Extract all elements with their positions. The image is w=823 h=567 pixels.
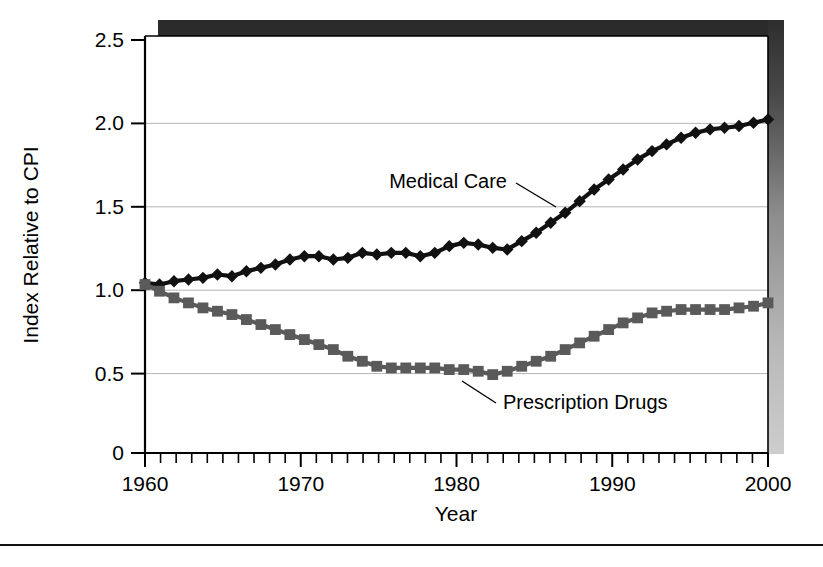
y-tick-label-1-0: 1.0 [95, 278, 124, 301]
data-point-marker-square [415, 363, 426, 374]
x-tick-label-1980: 1980 [433, 472, 480, 495]
data-point-marker-square [618, 317, 629, 328]
data-point-marker-square [458, 364, 469, 375]
x-tick-label-1960: 1960 [122, 472, 169, 495]
data-point-marker-square [183, 297, 194, 308]
data-point-marker-square [531, 356, 542, 367]
data-point-marker-square [386, 363, 397, 374]
data-point-marker-square [748, 301, 759, 312]
y-tick-label-2-5: 2.5 [95, 28, 124, 51]
line-chart: 2.5 2.0 1.5 1.0 0.5 0 Index Relative to … [0, 0, 823, 567]
x-tick-labels: 19601970198019902000 [122, 472, 792, 495]
data-point-marker-square [574, 338, 585, 349]
data-point-marker-square [140, 279, 151, 290]
data-point-marker-square [256, 319, 267, 330]
x-tick-label-2000: 2000 [745, 472, 792, 495]
data-point-marker-square [647, 307, 658, 318]
data-point-marker-square [487, 369, 498, 380]
data-point-marker-square [690, 304, 701, 315]
data-point-marker-square [473, 366, 484, 377]
data-point-marker-square [603, 324, 614, 335]
x-tick-label-1990: 1990 [589, 472, 636, 495]
data-point-marker-square [719, 304, 730, 315]
data-point-marker-square [560, 344, 571, 355]
data-point-marker-square [169, 292, 180, 303]
annotation-label-medical-care: Medical Care [389, 170, 507, 192]
data-point-marker-square [154, 286, 165, 297]
data-point-marker-square [734, 302, 745, 313]
data-point-marker-square [227, 309, 238, 320]
data-point-marker-square [328, 344, 339, 355]
data-point-marker-square [284, 329, 295, 340]
data-point-marker-square [270, 324, 281, 335]
annotation-label-prescription-drugs: Prescription Drugs [503, 391, 668, 413]
data-point-marker-square [357, 356, 368, 367]
y-tick-label-0-5: 0.5 [95, 362, 124, 385]
data-point-marker-square [212, 306, 223, 317]
data-point-marker-square [241, 314, 252, 325]
x-tick-label-1970: 1970 [277, 472, 324, 495]
data-point-marker-square [299, 334, 310, 345]
data-point-marker-square [632, 312, 643, 323]
y-tick-labels: 2.5 2.0 1.5 1.0 0.5 0 [95, 28, 124, 464]
figure-container: 2.5 2.0 1.5 1.0 0.5 0 Index Relative to … [0, 0, 823, 567]
data-point-marker-square [444, 364, 455, 375]
y-tick-label-2-0: 2.0 [95, 111, 124, 134]
data-point-marker-square [342, 351, 353, 362]
x-axis-title: Year [435, 502, 477, 525]
y-tick-label-0: 0 [112, 441, 124, 464]
data-point-marker-square [502, 366, 513, 377]
y-tick-label-1-5: 1.5 [95, 195, 124, 218]
data-point-marker-square [661, 306, 672, 317]
data-point-marker-square [313, 339, 324, 350]
data-point-marker-square [429, 363, 440, 374]
data-point-marker-square [198, 302, 209, 313]
data-point-marker-square [676, 304, 687, 315]
bottom-divider-rule [0, 544, 823, 546]
data-point-marker-square [763, 297, 774, 308]
data-point-marker-square [516, 361, 527, 372]
data-point-marker-square [545, 351, 556, 362]
y-axis-title: Index Relative to CPI [19, 146, 42, 343]
data-point-marker-square [400, 363, 411, 374]
data-point-marker-square [371, 361, 382, 372]
data-point-marker-square [705, 304, 716, 315]
data-point-marker-square [589, 331, 600, 342]
y-tick-marks [131, 40, 145, 453]
